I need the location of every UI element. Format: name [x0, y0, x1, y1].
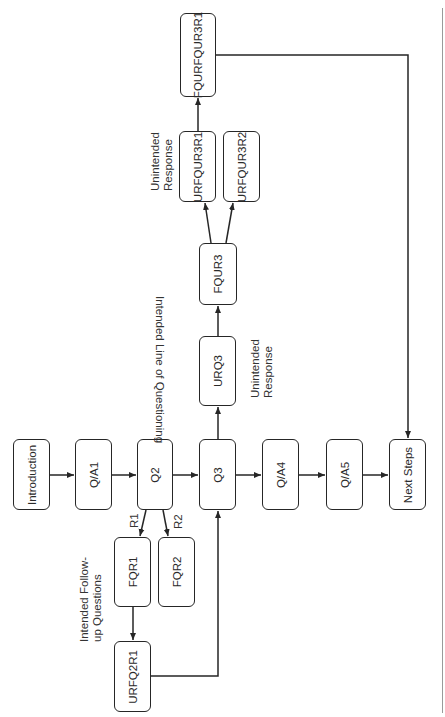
node-fqr1: FQR1 — [114, 537, 151, 607]
node-urfqur3r1: URFQUR3R1 — [179, 131, 216, 202]
node-label: URFQ2R1 — [127, 650, 139, 704]
node-fqurfqur3r1: FQURFQUR3R1 — [180, 13, 216, 97]
annotation-text-line1: Unintended — [249, 339, 262, 398]
node-label: Q/A1 — [88, 461, 100, 487]
edge-label-r2: R2 — [172, 514, 185, 529]
node-urfqur3r2: URFQUR3R2 — [223, 131, 260, 202]
annotation-text-line2: Response — [262, 339, 275, 398]
node-qa4: Q/A4 — [262, 439, 299, 510]
node-label: Next Steps — [402, 446, 414, 502]
annotation-intended-followup: Intended Follow- up Questions — [78, 557, 104, 642]
annotation-text: Intended Line of Questioning — [154, 296, 166, 443]
node-label: URFQUR3R1 — [192, 131, 204, 201]
annotation-intended-line: Intended Line of Questioning — [153, 296, 166, 443]
node-fqur3: FQUR3 — [199, 243, 237, 305]
node-label: FQR1 — [127, 557, 139, 588]
node-fqr2: FQR2 — [158, 537, 195, 607]
node-label: FQURFQUR3R1 — [192, 12, 204, 98]
node-label: Q/A4 — [275, 461, 287, 487]
node-label: Q/A5 — [339, 461, 351, 487]
annotation-text-line1: Intended Follow- — [78, 557, 91, 642]
node-label: URQ3 — [212, 355, 224, 387]
node-label: URFQUR3R2 — [236, 131, 248, 201]
edge-label-text: R1 — [128, 513, 140, 528]
node-introduction: Introduction — [13, 439, 50, 510]
node-qa5: Q/A5 — [326, 439, 363, 510]
node-urfq2r1: URFQ2R1 — [114, 641, 151, 712]
node-urq3: URQ3 — [199, 336, 236, 406]
node-label: FQUR3 — [212, 255, 224, 294]
node-label: FQR2 — [171, 557, 183, 588]
annotation-unintended-fqur3: Unintended Response — [149, 132, 175, 191]
node-label: Introduction — [26, 444, 38, 504]
edge-label-r1: R1 — [128, 513, 141, 528]
node-q3: Q3 — [199, 439, 236, 510]
annotation-unintended-q3: Unintended Response — [249, 339, 275, 398]
node-label: Q2 — [149, 467, 161, 482]
node-label: Q3 — [212, 467, 224, 482]
flowchart: Introduction Q/A1 Q2 Q3 Q/A4 Q/A5 Next S… — [0, 0, 445, 717]
annotation-text-line1: Unintended — [149, 132, 162, 191]
annotation-text-line2: Response — [162, 132, 175, 191]
node-next-steps: Next Steps — [389, 439, 426, 510]
node-q2: Q2 — [137, 439, 173, 510]
page-edge-line — [442, 8, 443, 713]
annotation-text-line2: up Questions — [91, 557, 104, 642]
node-qa1: Q/A1 — [75, 439, 112, 510]
edge-label-text: R2 — [172, 514, 184, 529]
